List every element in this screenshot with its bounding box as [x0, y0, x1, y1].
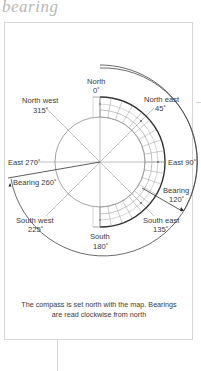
label-west-270: East 270˚ [8, 158, 41, 167]
label-north-deg: 0˚ [93, 86, 100, 95]
label-north: North [87, 77, 106, 86]
diagram-caption: The compass is set north with the map. B… [10, 300, 188, 320]
label-north-west-deg: 315˚ [33, 106, 48, 115]
label-south: South [90, 232, 110, 241]
label-east-90: East 90˚ [168, 158, 196, 167]
label-south-deg: 180˚ [93, 242, 108, 251]
label-bearing-260: Bearing 260˚ [13, 178, 56, 187]
arrowhead-120 [180, 207, 184, 211]
arrowhead-260 [9, 183, 12, 187]
label-south-west: South west [16, 216, 54, 225]
label-bearing-120-deg: 120˚ [169, 195, 184, 204]
label-north-west: North west [22, 96, 59, 105]
label-north-east-deg: 45˚ [155, 104, 166, 113]
label-south-east-deg: 135˚ [153, 225, 168, 234]
label-bearing-120: Bearing [163, 186, 189, 195]
label-south-west-deg: 225˚ [28, 225, 43, 234]
caption-line-1: The compass is set north with the map. B… [10, 300, 188, 310]
label-north-east: North east [144, 95, 180, 104]
label-south-east: South east [143, 216, 180, 225]
caption-line-2: are read clockwise from north [10, 310, 188, 320]
